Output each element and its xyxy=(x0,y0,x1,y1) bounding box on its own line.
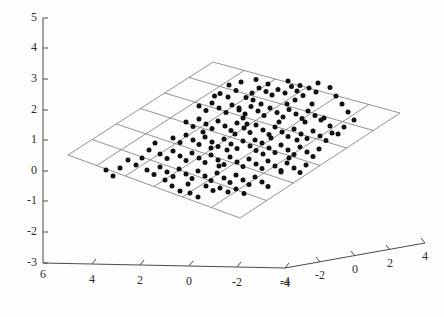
grid-plane xyxy=(68,62,400,218)
data-point xyxy=(286,148,291,153)
data-point xyxy=(304,163,309,168)
data-point xyxy=(257,86,262,91)
data-point xyxy=(118,166,123,171)
data-point xyxy=(197,156,202,161)
x-tick-label: 4 xyxy=(81,272,103,287)
data-point xyxy=(254,123,259,128)
data-point xyxy=(324,138,329,143)
data-point xyxy=(292,152,297,157)
data-point xyxy=(234,187,239,192)
data-point xyxy=(226,95,231,100)
data-point xyxy=(222,137,227,142)
data-point xyxy=(270,93,275,98)
z-tick-label: 2 xyxy=(11,102,37,117)
data-point xyxy=(134,163,139,168)
data-point xyxy=(186,182,191,187)
y-axis-tick xyxy=(316,257,320,262)
z-tick-label: 0 xyxy=(11,163,37,178)
data-point xyxy=(147,148,152,153)
data-point xyxy=(283,91,288,96)
data-point xyxy=(197,142,202,147)
data-point xyxy=(318,134,323,139)
y-axis-tick xyxy=(351,251,355,256)
data-point xyxy=(126,158,131,163)
data-point xyxy=(247,157,252,162)
data-point xyxy=(242,191,247,196)
data-point xyxy=(228,180,233,185)
x-tick-label: -2 xyxy=(226,275,248,290)
data-point xyxy=(190,176,195,181)
data-point xyxy=(254,148,259,153)
z-axis xyxy=(43,18,48,263)
data-point xyxy=(226,190,231,195)
data-point xyxy=(216,158,221,163)
x-tick-label: 6 xyxy=(32,267,54,282)
data-point xyxy=(251,98,256,103)
data-point xyxy=(352,118,357,123)
data-point xyxy=(342,125,347,130)
scatter-points xyxy=(104,77,357,200)
data-point xyxy=(170,184,175,189)
x-tick-label: 0 xyxy=(178,274,200,289)
data-point xyxy=(294,112,299,117)
data-point xyxy=(218,91,223,96)
data-point xyxy=(253,138,258,143)
data-point xyxy=(273,150,278,155)
data-point xyxy=(203,135,208,140)
x-axis-line xyxy=(43,263,285,268)
data-point xyxy=(273,125,278,130)
data-point xyxy=(104,168,109,173)
data-point xyxy=(328,85,333,90)
data-point xyxy=(228,155,233,160)
data-point xyxy=(334,94,339,99)
data-point xyxy=(266,184,271,189)
data-point xyxy=(201,130,206,135)
data-point xyxy=(285,161,290,166)
data-point xyxy=(305,136,310,141)
z-tick-label: 5 xyxy=(11,10,37,25)
data-point xyxy=(273,164,278,169)
data-point xyxy=(188,191,193,196)
data-point xyxy=(266,159,271,164)
data-point xyxy=(248,130,253,135)
data-point xyxy=(249,104,254,109)
data-point xyxy=(260,141,265,146)
data-point xyxy=(279,170,284,175)
data-point xyxy=(216,144,221,149)
x-axis xyxy=(43,259,289,268)
data-point xyxy=(178,189,183,194)
data-point xyxy=(111,174,116,179)
data-point xyxy=(178,154,183,159)
data-point xyxy=(165,156,170,161)
data-point xyxy=(204,184,209,189)
data-point xyxy=(224,110,229,115)
data-point xyxy=(268,106,273,111)
data-point xyxy=(298,145,303,150)
data-point xyxy=(346,110,351,115)
data-point xyxy=(184,158,189,163)
data-point xyxy=(276,87,281,92)
data-point xyxy=(163,178,168,183)
data-point xyxy=(253,175,258,180)
data-point xyxy=(235,160,240,165)
data-point xyxy=(305,150,310,155)
data-point xyxy=(210,140,215,145)
y-axis-tick xyxy=(421,238,425,243)
data-point xyxy=(235,121,240,126)
data-point xyxy=(140,156,145,161)
data-point xyxy=(209,153,214,158)
data-point xyxy=(210,126,215,131)
y-tick-label: -4 xyxy=(274,274,296,289)
data-point xyxy=(330,131,335,136)
data-point xyxy=(225,148,230,153)
data-point xyxy=(145,168,150,173)
data-point xyxy=(227,83,232,88)
x-tick-label: 2 xyxy=(129,273,151,288)
y-tick-label: 2 xyxy=(379,256,401,271)
data-point xyxy=(197,104,202,109)
data-point xyxy=(279,143,284,148)
data-point xyxy=(299,132,304,137)
data-point xyxy=(196,195,201,200)
x-axis-tick xyxy=(140,260,144,265)
data-point xyxy=(245,122,250,127)
